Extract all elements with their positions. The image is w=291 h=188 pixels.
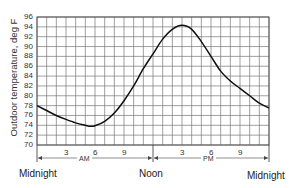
y-tick-label: 76: [24, 110, 33, 119]
y-tick-label: 78: [24, 101, 33, 110]
y-tick-label: 96: [24, 12, 33, 21]
am-label: AM: [77, 155, 92, 162]
x-tick-label: 3: [64, 148, 68, 157]
y-tick-label: 80: [24, 91, 33, 100]
y-tick-label: 88: [24, 51, 33, 60]
x-tick-label: 6: [93, 148, 97, 157]
y-tick-label: 84: [24, 71, 33, 80]
y-tick-label: 92: [24, 32, 33, 41]
pm-label: PM: [201, 155, 216, 162]
y-tick-label: 90: [24, 42, 33, 51]
x-tick-label: 9: [238, 148, 242, 157]
y-tick-label: 74: [24, 120, 33, 129]
x-tick-label: 9: [122, 148, 126, 157]
midnight-start-label: Midnight: [19, 168, 57, 179]
y-axis-label: Outdoor temperature, deg F: [8, 3, 19, 153]
y-tick-label: 82: [24, 81, 33, 90]
midnight-end-label: Midnight: [247, 170, 285, 181]
temperature-plot: [0, 0, 291, 188]
y-tick-label: 72: [24, 130, 33, 139]
noon-label: Noon: [139, 168, 163, 179]
y-tick-label: 94: [24, 22, 33, 31]
y-tick-label: 70: [24, 140, 33, 149]
x-tick-label: 3: [180, 148, 184, 157]
y-tick-label: 86: [24, 61, 33, 70]
